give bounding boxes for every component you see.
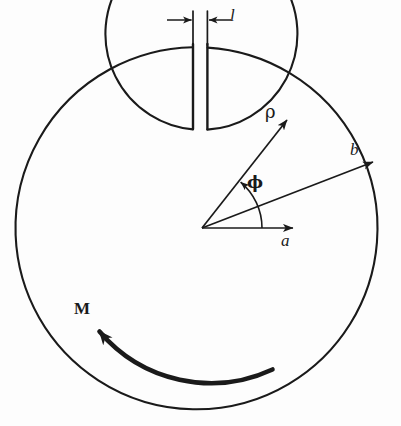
inner-radius-label: a <box>281 232 290 249</box>
radial-coordinate-label: ρ <box>265 103 276 121</box>
outer-circle-arc <box>15 47 377 409</box>
slot-width-label: l <box>230 7 235 24</box>
diagram-canvas <box>0 0 401 426</box>
magnetization-arc <box>100 332 273 384</box>
outer-radius-label: b <box>350 141 359 158</box>
figure-diagram: l ρ b ϕ a M <box>0 0 401 426</box>
angle-label: ϕ <box>247 174 263 191</box>
magnetization-label: M <box>74 300 90 317</box>
